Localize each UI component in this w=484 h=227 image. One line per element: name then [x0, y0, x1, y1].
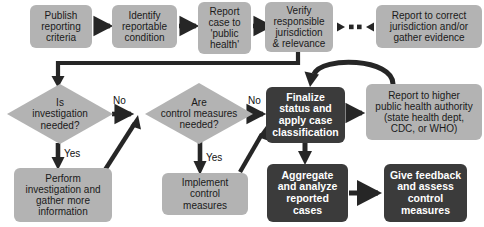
edge-label-no-control-measures: No [248, 95, 261, 106]
node-report-case-to-public-health[interactable]: Report case to 'public health' [198, 2, 251, 54]
node-label: Publish reporting criteria [30, 10, 92, 44]
edge-label-no-investigation: No [113, 95, 126, 106]
node-report-to-correct-jurisdiction[interactable]: Report to correct jurisdiction and/or ga… [376, 5, 482, 48]
flowchart-diagram: Publish reporting criteria Identify repo… [0, 0, 484, 227]
node-verify-responsible-jurisdiction[interactable]: Verify responsible jurisdiction & releva… [265, 2, 333, 52]
edge-ctrlneeded-implement [194, 142, 207, 175]
node-report-to-higher-authority[interactable]: Report to higher public health authority… [366, 84, 482, 140]
node-label: Aggregate and analyze reported cases [267, 170, 348, 217]
node-label: Is investigation needed? [32, 97, 88, 131]
node-label: Verify responsible jurisdiction & releva… [265, 5, 333, 50]
node-label: Give feedback and assess control measure… [384, 170, 467, 217]
edge-finalize-aggregate [298, 143, 312, 165]
node-give-feedback-assess-control[interactable]: Give feedback and assess control measure… [384, 164, 467, 222]
node-are-control-measures-needed-label: Are control measures needed? [140, 82, 258, 145]
node-label: Report to higher public health authority… [366, 90, 482, 135]
node-label: Report to correct jurisdiction and/or ga… [376, 10, 482, 44]
node-is-investigation-needed-label: Is investigation needed? [6, 83, 114, 145]
edge-label-yes-investigation: Yes [64, 148, 80, 159]
edge-verify-reportcorrect [337, 23, 374, 32]
edge-invneeded-performinv [52, 143, 65, 170]
node-label: Finalize status and apply case classific… [266, 92, 345, 139]
node-finalize-status-apply-classification[interactable]: Finalize status and apply case classific… [266, 87, 345, 143]
node-label: Implement control measures [162, 177, 248, 211]
node-publish-reporting-criteria[interactable]: Publish reporting criteria [30, 5, 92, 48]
node-aggregate-analyze-reported-cases[interactable]: Aggregate and analyze reported cases [267, 164, 348, 222]
node-identify-reportable-condition[interactable]: Identify reportable condition [112, 5, 177, 48]
node-perform-investigation[interactable]: Perform investigation and gather more in… [14, 168, 112, 222]
edge-label-yes-control-measures: Yes [206, 152, 222, 163]
node-label: Are control measures needed? [161, 97, 238, 131]
node-label: Perform investigation and gather more in… [14, 173, 112, 218]
node-label: Identify reportable condition [112, 10, 177, 44]
node-implement-control-measures[interactable]: Implement control measures [162, 173, 248, 215]
node-label: Report case to 'public health' [198, 6, 251, 51]
